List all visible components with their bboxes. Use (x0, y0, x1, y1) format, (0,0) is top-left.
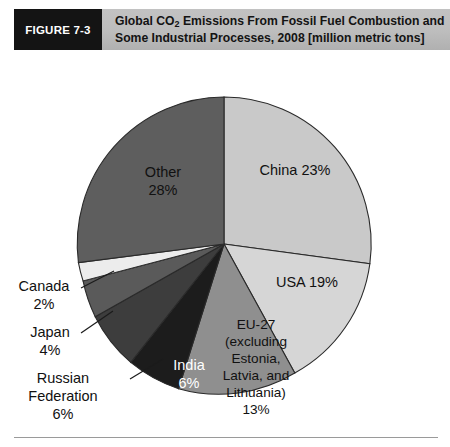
pie-slice-china[interactable] (224, 97, 371, 264)
pie-label-japan-name: Japan (30, 324, 70, 340)
figure-title-line-2: Some Industrial Processes, 2008 [million… (115, 30, 444, 46)
pie-label-eu27-line-4: Latvia, and (223, 368, 290, 383)
pie-label-other-name: Other (145, 164, 181, 180)
pie-label-canada-name: Canada (19, 278, 71, 294)
figure-title-line-1: Global CO2 Emissions From Fossil Fuel Co… (115, 13, 444, 30)
figure-title-line-1-part-b: Emissions From Fossil Fuel Combustion an… (180, 14, 445, 28)
pie-chart-area: Other 28% China 23% USA 19% EU-27 (exclu… (0, 52, 450, 427)
pie-label-eu27-line-3: Estonia, (231, 351, 280, 366)
figure-header: FIGURE 7-3 Global CO2 Emissions From Fos… (14, 9, 438, 50)
pie-label-japan-value: 4% (40, 342, 61, 358)
figure-title-line-1-part-a: Global CO (115, 14, 175, 28)
co2-subscript: 2 (175, 19, 180, 29)
pie-label-eu27-line-5: Lithuania) (226, 385, 286, 400)
pie-label-usa: USA 19% (276, 274, 338, 290)
figure-number-badge: FIGURE 7-3 (14, 9, 102, 50)
pie-label-india-name: India (173, 357, 205, 373)
pie-label-india-value: 6% (179, 375, 200, 391)
figure-title-bar: Global CO2 Emissions From Fossil Fuel Co… (102, 9, 450, 50)
figure-bottom-rule (14, 437, 438, 438)
figure-number-label: FIGURE 7-3 (25, 24, 90, 36)
pie-chart-svg: Other 28% China 23% USA 19% EU-27 (exclu… (0, 52, 450, 427)
pie-label-russia-line-1: Russian (37, 370, 89, 386)
pie-label-russia-line-2: Federation (28, 388, 97, 404)
pie-label-china: China 23% (260, 162, 331, 178)
pie-label-canada-value: 2% (34, 296, 55, 312)
pie-label-eu27-line-2: (excluding (225, 334, 287, 349)
pie-label-russia-value: 6% (53, 406, 74, 422)
pie-label-other-value: 28% (148, 182, 177, 198)
pie-label-eu27-value: 13% (242, 402, 269, 417)
pie-label-eu27-line-1: EU-27 (237, 317, 276, 332)
